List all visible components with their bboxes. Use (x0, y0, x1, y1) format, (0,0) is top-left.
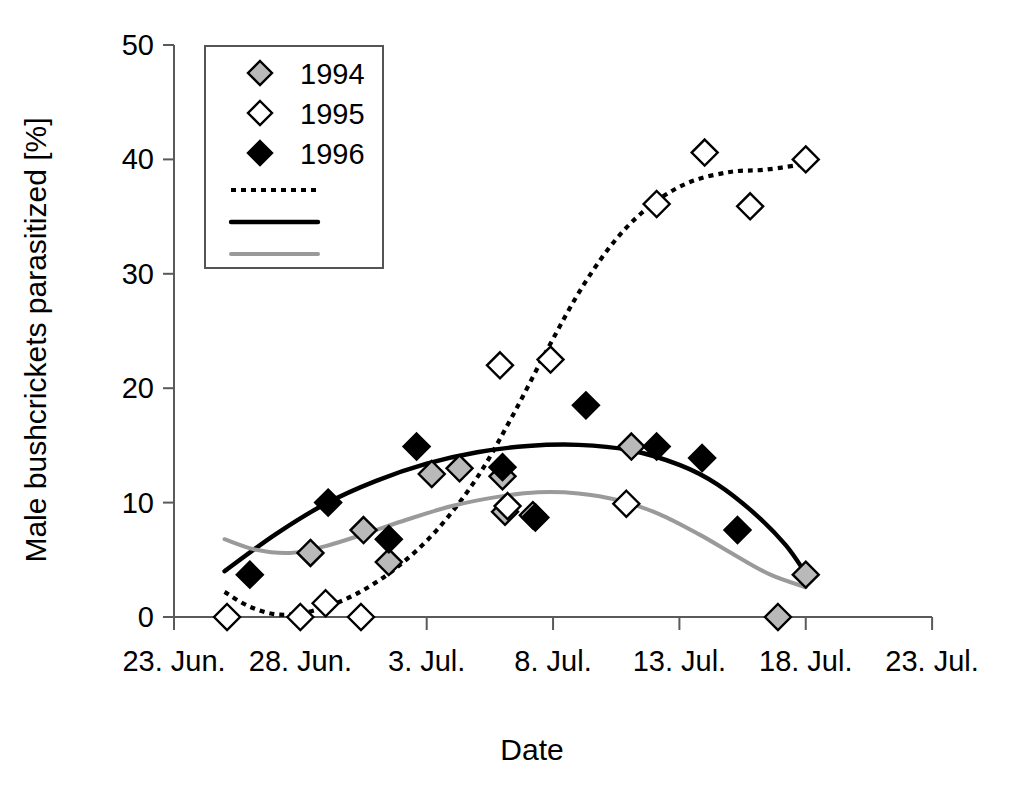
y-axis-label: Male bushcrickets parasitized [%] (19, 117, 52, 562)
y-axis-tick-label: 40 (122, 143, 154, 175)
legend-label-1996: 1996 (300, 138, 365, 170)
x-axis-tick-label: 3. Jul. (388, 645, 465, 677)
x-axis-tick-label: 23. Jul. (885, 645, 979, 677)
parasitization-scatter-chart: 01020304050 23. Jun.28. Jun.3. Jul.8. Ju… (0, 0, 1010, 801)
y-axis-tick-label: 50 (122, 29, 154, 61)
legend-label-1994: 1994 (300, 58, 365, 90)
chart-root: 01020304050 23. Jun.28. Jun.3. Jul.8. Ju… (0, 0, 1010, 801)
x-axis-tick-label: 18. Jul. (759, 645, 853, 677)
x-axis-tick-label: 28. Jun. (249, 645, 352, 677)
legend-label-1995: 1995 (300, 98, 365, 130)
y-axis-tick-label: 20 (122, 372, 154, 404)
y-axis-tick-label: 0 (138, 601, 154, 633)
y-axis-tick-label: 30 (122, 258, 154, 290)
x-axis-tick-label: 13. Jul. (633, 645, 727, 677)
y-axis-tick-label: 10 (122, 487, 154, 519)
x-axis-tick-label: 23. Jun. (122, 645, 225, 677)
legend: 199419951996 (205, 46, 383, 268)
x-axis-label: Date (500, 733, 563, 766)
x-axis-tick-label: 8. Jul. (514, 645, 591, 677)
